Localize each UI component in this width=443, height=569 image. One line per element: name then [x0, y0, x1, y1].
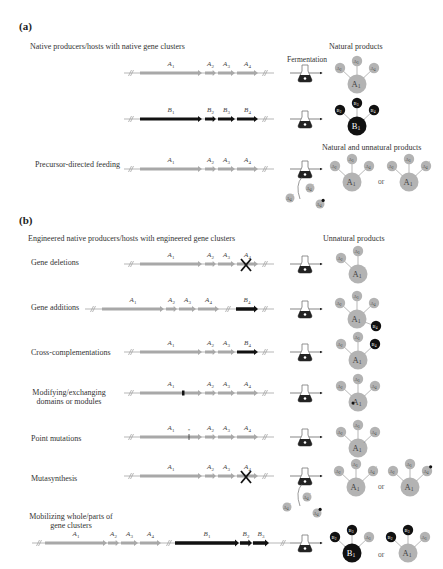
svg-text:A1: A1 [167, 251, 175, 260]
svg-text:′: ′ [290, 502, 291, 507]
product-structure: B1B2B3A3 [330, 525, 374, 563]
product-structure: A1A2A3A4 [330, 154, 374, 192]
gene-arrow [237, 116, 258, 122]
gene-arrow [140, 70, 202, 76]
gene-cluster-row: A1A2A3A4* [124, 424, 274, 440]
svg-text:A2: A2 [206, 424, 214, 433]
svg-text:A4: A4 [243, 156, 251, 165]
svg-text:A1: A1 [167, 424, 175, 433]
gene-arrow [253, 540, 269, 547]
gene-arrow [198, 306, 219, 312]
fed-precursors: A4′A4′A4 [286, 183, 325, 209]
product-structure: A1A2A3A4 [336, 374, 380, 412]
svg-text:A2: A2 [206, 339, 214, 348]
gene-cluster-row: A1A2A3A4 [124, 251, 274, 271]
product-structure: A1′A2A3A4 [336, 420, 380, 458]
svg-text:A3: A3 [222, 424, 230, 433]
gene-arrow [205, 434, 216, 440]
svg-text:A2: A2 [167, 296, 175, 305]
gene-arrow [237, 70, 258, 76]
svg-text:A2: A2 [206, 156, 214, 165]
svg-text:A3: A3 [222, 251, 230, 260]
gene-arrow [205, 166, 216, 172]
gene-arrow [237, 390, 258, 396]
product-structure: A1A2A3A4′ [387, 154, 431, 192]
svg-text:B2: B2 [207, 106, 214, 115]
or-label: or [378, 177, 385, 186]
gene-arrow [140, 473, 202, 479]
gene-arrow [205, 390, 216, 396]
svg-text:A3: A3 [222, 463, 230, 472]
svg-text:B3: B3 [223, 106, 230, 115]
svg-text:B4: B4 [244, 296, 251, 305]
svg-text:′: ′ [313, 183, 314, 188]
svg-text:A1: A1 [72, 530, 80, 539]
gene-cluster-row: A1A2A3A4 [124, 380, 274, 396]
svg-text:′: ′ [364, 441, 365, 446]
or-label: or [378, 482, 385, 491]
gene-clusters: A1A2A3A4B1B2B3B4A1A2A3A4A1A2A3A4A1A2A3A4… [32, 60, 290, 547]
gene-arrow [140, 349, 202, 355]
svg-text:B4: B4 [244, 106, 251, 115]
gene-arrow [108, 540, 119, 546]
svg-text:A4: A4 [243, 380, 251, 389]
gene-arrow [205, 473, 216, 479]
svg-text:B1: B1 [204, 530, 211, 539]
product-structure: A1A2A3A4 [388, 459, 432, 497]
svg-text:A1: A1 [167, 380, 175, 389]
product-structure: A1A2A3B4 [336, 332, 380, 370]
svg-text:A4: A4 [204, 296, 212, 305]
biosynthesis-figure: A1A2A3A4B1B2B3B4A1A2A3A4A1A2A3A4A1A2A3A4… [0, 0, 443, 569]
svg-text:B2: B2 [243, 530, 250, 539]
svg-text:A1: A1 [129, 296, 137, 305]
svg-text:A4: A4 [243, 251, 251, 260]
fermentation-flask-icon [290, 111, 322, 128]
gene-cluster-row: A1A2A3A4B4 [85, 296, 274, 313]
gene-arrow [218, 261, 235, 267]
gene-arrow [218, 70, 235, 76]
gene-arrow [45, 540, 107, 546]
fermentation-flask-icon [290, 535, 322, 552]
gene-arrow [140, 540, 161, 546]
svg-text:′: ′ [310, 492, 311, 497]
svg-text:′: ′ [293, 193, 294, 198]
product-structure: A1A2A3 [336, 246, 368, 284]
gene-arrow [102, 306, 164, 312]
product-structure: A1A2A3A4 [335, 56, 379, 94]
svg-text:B4: B4 [244, 339, 251, 348]
svg-text:A3: A3 [222, 380, 230, 389]
gene-arrow [205, 70, 216, 76]
svg-text:A2: A2 [206, 380, 214, 389]
gene-cluster-row: A1A2A3B4 [124, 339, 274, 355]
gene-arrow [140, 261, 202, 267]
gene-arrow [218, 166, 235, 172]
svg-text:A2: A2 [206, 60, 214, 69]
gene-arrow [237, 166, 258, 172]
product-structure: A1A2A3A4′ [334, 459, 378, 497]
svg-text:′: ′ [376, 465, 377, 470]
svg-text:A4: A4 [243, 60, 251, 69]
svg-text:′: ′ [429, 160, 430, 165]
gene-arrow [237, 434, 258, 440]
svg-text:A1: A1 [167, 156, 175, 165]
svg-text:A2: A2 [206, 251, 214, 260]
gene-cluster-row: A1A2A3A4 [124, 463, 274, 483]
gene-arrow [140, 434, 202, 440]
svg-text:A3: A3 [222, 339, 230, 348]
svg-text:A3: A3 [222, 60, 230, 69]
gene-arrow [121, 540, 138, 546]
gene-arrow [140, 116, 202, 122]
product-structure: B1B2B3B4 [335, 98, 379, 136]
svg-text:A4: A4 [146, 530, 154, 539]
gene-arrow [166, 306, 177, 312]
gene-cluster-row: A1A2A3A4B1B2B3 [32, 530, 290, 547]
gene-arrow [140, 166, 202, 172]
svg-text:A3: A3 [183, 296, 191, 305]
gene-arrow [140, 390, 202, 396]
svg-text:B1: B1 [168, 106, 175, 115]
gene-arrow [205, 349, 216, 355]
gene-arrow [218, 473, 235, 479]
gene-arrow [218, 390, 235, 396]
svg-text:A2: A2 [206, 463, 214, 472]
gene-cluster-row: A1A2A3A4 [124, 60, 274, 76]
